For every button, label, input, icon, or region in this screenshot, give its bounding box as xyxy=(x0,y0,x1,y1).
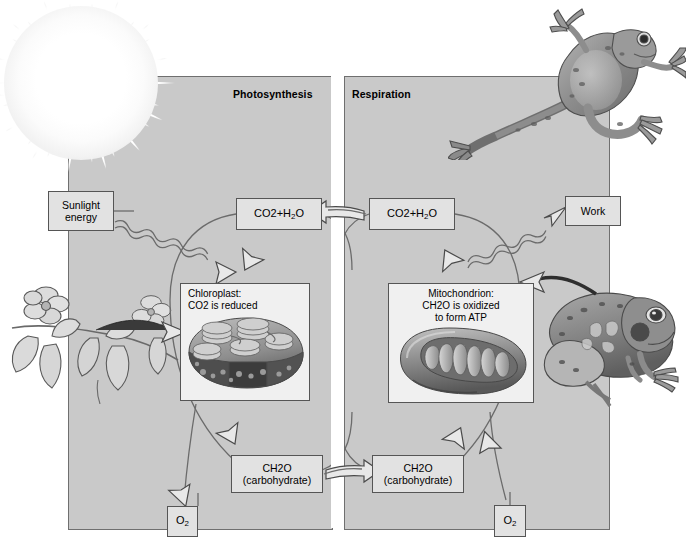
co2-h2o-left-formula: CO2+H2O xyxy=(254,207,304,219)
ch2o-left-sub: (carbohydrate) xyxy=(243,474,311,486)
frog-leaping-illustration xyxy=(448,8,686,160)
ch2o-right-formula: CH2O xyxy=(403,462,432,474)
sunlight-line1: Sunlight xyxy=(62,199,100,211)
plant-illustration xyxy=(6,276,186,404)
label-ch2o-respiration: CH2O (carbohydrate) xyxy=(372,455,464,493)
chloroplast-caption-line2: CO2 is reduced xyxy=(188,300,258,311)
label-work: Work xyxy=(565,196,621,226)
ch2o-left-formula: CH2O xyxy=(262,462,291,474)
label-o2-photosynthesis: O2 xyxy=(167,506,198,537)
label-ch2o-photosynthesis: CH2O (carbohydrate) xyxy=(231,455,323,493)
mitochondrion-caption-line3: to form ATP xyxy=(435,312,487,323)
sunlight-line2: energy xyxy=(65,211,97,223)
label-co2-h2o-photosynthesis: CO2+H2O xyxy=(236,198,322,230)
sun-core xyxy=(4,6,158,160)
mitochondrion-box: Mitochondrion: CH2O is oxidized to form … xyxy=(388,283,534,403)
o2-left-formula: O2 xyxy=(176,514,189,526)
mitochondrion-caption-line1: Mitochondrion: xyxy=(428,288,494,299)
o2-right-formula: O2 xyxy=(504,514,517,526)
frog-sitting-illustration xyxy=(536,282,686,408)
work-text: Work xyxy=(581,205,605,217)
chloroplast-box: Chloroplast: CO2 is reduced xyxy=(180,283,310,401)
chloroplast-caption: Chloroplast: CO2 is reduced xyxy=(181,288,309,312)
mitochondrion-illustration xyxy=(393,324,531,400)
mitochondrion-caption: Mitochondrion: CH2O is oxidized to form … xyxy=(389,288,533,325)
label-sunlight-energy: Sunlight energy xyxy=(48,191,114,231)
chloroplast-illustration xyxy=(183,316,309,400)
figure-canvas: Photosynthesis Respiration Sunlight ener… xyxy=(0,0,686,545)
co2-h2o-right-formula: CO2+H2O xyxy=(387,207,437,219)
sun-illustration xyxy=(0,0,176,178)
chloroplast-caption-line1: Chloroplast: xyxy=(188,288,241,299)
panel-title-respiration: Respiration xyxy=(352,88,411,100)
mitochondrion-caption-line2: CH2O is oxidized xyxy=(422,300,499,311)
panel-title-photosynthesis: Photosynthesis xyxy=(233,88,313,100)
label-co2-h2o-respiration: CO2+H2O xyxy=(369,198,455,230)
ch2o-right-sub: (carbohydrate) xyxy=(384,474,452,486)
label-o2-respiration: O2 xyxy=(494,505,526,537)
